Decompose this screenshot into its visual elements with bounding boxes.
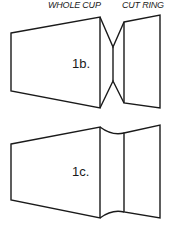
- neck-top: [100, 17, 124, 47]
- waist-top: [100, 127, 124, 134]
- cut-ring-shape: [124, 15, 160, 108]
- cut-ring-label: CUT RING: [122, 0, 164, 10]
- cut-ring-shape: [124, 125, 160, 218]
- waist-bottom: [100, 211, 124, 218]
- whole-cup-label: WHOLE CUP: [48, 0, 101, 10]
- neck-bottom: [100, 81, 124, 108]
- diagram-canvas: [0, 0, 173, 227]
- figure-1c-label: 1c.: [72, 164, 89, 179]
- figure-1b-label: 1b.: [72, 56, 90, 71]
